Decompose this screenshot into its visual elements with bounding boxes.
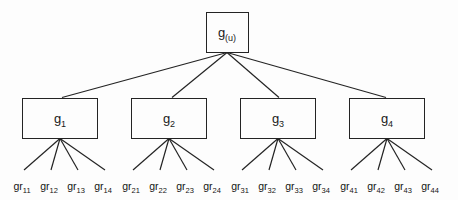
- leaf-base: gr: [94, 180, 103, 192]
- leaf-subscript: 21: [132, 186, 140, 195]
- leaf-base: gr: [367, 180, 376, 192]
- leaf-base: gr: [231, 180, 240, 192]
- leaf-label-gr32: gr32: [258, 181, 276, 192]
- edge-g1-to-gr13: [60, 139, 78, 171]
- leaf-label-gr41: gr41: [340, 181, 358, 192]
- leaf-base: gr: [40, 180, 49, 192]
- leaf-label-gr14: gr14: [94, 181, 112, 192]
- leaf-subscript: 41: [350, 186, 358, 195]
- leaf-base: gr: [312, 180, 321, 192]
- leaf-subscript: 22: [159, 186, 167, 195]
- leaf-base: gr: [122, 180, 131, 192]
- leaf-subscript: 13: [77, 186, 85, 195]
- leaf-subscript: 23: [186, 186, 194, 195]
- edge-root-to-g1: [62, 53, 227, 98]
- edge-root-to-g4: [227, 53, 386, 98]
- leaf-base: gr: [203, 180, 212, 192]
- leaf-base: gr: [176, 180, 185, 192]
- node-g1-label: g1: [54, 112, 66, 125]
- node-g1[interactable]: g1: [22, 98, 98, 139]
- tree-diagram: g(u) g1 g2 g3 g4 gr11gr12gr13gr14gr21gr2…: [0, 0, 458, 200]
- leaf-base: gr: [421, 180, 430, 192]
- leaf-base: gr: [149, 180, 158, 192]
- leaf-subscript: 11: [23, 186, 31, 195]
- leaf-label-gr12: gr12: [40, 181, 58, 192]
- leaf-subscript: 44: [431, 186, 439, 195]
- leaf-subscript: 31: [241, 186, 249, 195]
- leaf-subscript: 32: [268, 186, 276, 195]
- node-g4-label: g4: [381, 112, 393, 125]
- edge-g1-to-gr14: [60, 139, 105, 171]
- leaf-label-gr23: gr23: [176, 181, 194, 192]
- leaf-base: gr: [285, 180, 294, 192]
- leaf-base: gr: [258, 180, 267, 192]
- edge-g3-to-gr33: [278, 139, 296, 171]
- node-g3-label: g3: [272, 112, 284, 125]
- leaf-label-gr11: gr11: [13, 181, 30, 192]
- leaf-label-gr31: gr31: [231, 181, 249, 192]
- leaf-subscript: 43: [404, 186, 412, 195]
- edge-g3-to-gr34: [278, 139, 323, 171]
- leaf-subscript: 24: [213, 186, 221, 195]
- leaf-label-gr22: gr22: [149, 181, 167, 192]
- leaf-label-gr24: gr24: [203, 181, 221, 192]
- leaf-subscript: 42: [377, 186, 385, 195]
- leaf-label-gr34: gr34: [312, 181, 330, 192]
- leaf-label-gr42: gr42: [367, 181, 385, 192]
- leaf-label-gr33: gr33: [285, 181, 303, 192]
- leaf-base: gr: [67, 180, 76, 192]
- edge-g4-to-gr41: [351, 139, 387, 171]
- node-g2[interactable]: g2: [131, 98, 207, 139]
- leaf-base: gr: [394, 180, 403, 192]
- leaf-base: gr: [13, 180, 22, 192]
- edge-root-to-g2: [172, 53, 227, 98]
- edge-g4-to-gr44: [387, 139, 432, 171]
- edge-g2-to-gr21: [133, 139, 169, 171]
- leaf-label-gr21: gr21: [122, 181, 140, 192]
- leaf-base: gr: [340, 180, 349, 192]
- leaf-subscript: 34: [322, 186, 330, 195]
- leaf-label-gr44: gr44: [421, 181, 439, 192]
- node-g3[interactable]: g3: [240, 98, 316, 139]
- node-root-label: g(u): [218, 26, 236, 39]
- edge-g3-to-gr31: [242, 139, 278, 171]
- edge-g2-to-gr23: [169, 139, 187, 171]
- edge-g1-to-gr11: [24, 139, 60, 171]
- edge-g2-to-gr24: [169, 139, 214, 171]
- leaf-subscript: 12: [50, 186, 58, 195]
- node-g2-label: g2: [163, 112, 175, 125]
- leaf-label-gr43: gr43: [394, 181, 412, 192]
- leaf-subscript: 33: [295, 186, 303, 195]
- node-g4[interactable]: g4: [349, 98, 425, 139]
- node-root[interactable]: g(u): [206, 12, 249, 53]
- leaf-label-gr13: gr13: [67, 181, 85, 192]
- leaf-subscript: 14: [104, 186, 112, 195]
- edge-g4-to-gr43: [387, 139, 405, 171]
